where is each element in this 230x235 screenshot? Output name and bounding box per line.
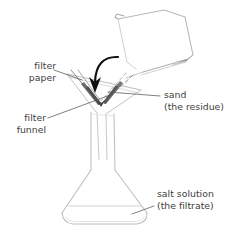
leader-filter-paper: [54, 70, 82, 80]
label-filter-funnel: filter funnel: [2, 112, 46, 135]
label-sand-line2: (the residue): [164, 101, 224, 113]
label-filter-funnel-line1: filter: [2, 112, 46, 124]
beaker: [115, 10, 193, 78]
leader-lines: [48, 70, 160, 214]
label-salt-solution-line2: (the filtrate): [157, 200, 214, 212]
filter-funnel: [67, 74, 141, 160]
label-salt-solution-line1: salt solution: [157, 188, 214, 200]
label-salt-solution: salt solution (the filtrate): [157, 188, 214, 211]
filtration-diagram: filter paper filter funnel sand (the res…: [0, 0, 230, 235]
filter-paper: [71, 70, 133, 106]
label-filter-funnel-line2: funnel: [2, 124, 46, 136]
label-filter-paper-line1: filter: [8, 60, 56, 72]
label-filter-paper: filter paper: [8, 60, 56, 83]
label-sand: sand (the residue): [164, 89, 224, 112]
leader-filter-funnel: [48, 94, 113, 118]
label-sand-line1: sand: [164, 89, 224, 101]
conical-flask: [62, 112, 147, 224]
label-filter-paper-line2: paper: [8, 72, 56, 84]
